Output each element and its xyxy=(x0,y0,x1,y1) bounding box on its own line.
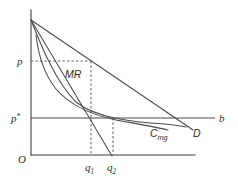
demand-curve-D xyxy=(31,20,193,130)
quantity-q2-label: q2 xyxy=(107,161,117,176)
price-pstar-label: p* xyxy=(10,112,21,124)
x-axis-right-label-b: b xyxy=(219,112,225,124)
figure-canvas: p p* O q1 q2 MR Cmg xyxy=(0,0,238,181)
guide-lines-group xyxy=(31,61,215,155)
labels-group: p p* O q1 q2 MR Cmg xyxy=(10,55,225,176)
curves-group xyxy=(31,20,193,156)
price-p-label: p xyxy=(16,55,23,67)
economics-diagram-svg: p p* O q1 q2 MR Cmg xyxy=(0,0,238,181)
marginal-revenue-label: MR xyxy=(65,68,82,80)
marginal-revenue-line-MR xyxy=(31,20,112,156)
demand-label: D xyxy=(193,127,201,139)
marginal-cost-curve-Cmg xyxy=(36,35,168,130)
origin-label-O: O xyxy=(18,153,26,165)
quantity-q1-label: q1 xyxy=(85,161,94,176)
